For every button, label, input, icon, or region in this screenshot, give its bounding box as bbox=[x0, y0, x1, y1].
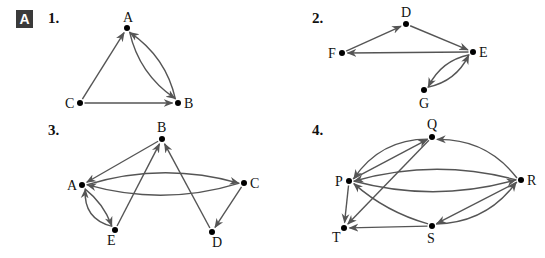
edge-E-to-A bbox=[85, 189, 112, 226]
graph-3: BACED bbox=[67, 120, 259, 250]
node-label-C: C bbox=[65, 96, 74, 111]
edge-P-to-R bbox=[353, 180, 515, 192]
node-label-Q: Q bbox=[427, 117, 437, 132]
node-D bbox=[403, 21, 409, 27]
edge-B-to-A bbox=[130, 33, 175, 100]
node-label-E: E bbox=[107, 233, 116, 248]
node-C bbox=[77, 100, 83, 106]
edge-E-to-G bbox=[428, 55, 469, 87]
node-label-B: B bbox=[157, 120, 166, 135]
node-A bbox=[124, 25, 130, 31]
graph-2: DEFG bbox=[328, 5, 488, 111]
node-label-A: A bbox=[123, 10, 134, 25]
edge-S-to-T bbox=[349, 226, 427, 228]
node-T bbox=[341, 225, 347, 231]
edge-A-to-B bbox=[130, 32, 175, 99]
node-label-B: B bbox=[184, 96, 193, 111]
node-R bbox=[518, 177, 524, 183]
node-A bbox=[79, 182, 85, 188]
edge-R-to-P bbox=[354, 169, 516, 181]
node-label-F: F bbox=[328, 46, 336, 61]
node-label-R: R bbox=[527, 173, 537, 188]
graph-4: QPRTS bbox=[332, 117, 537, 246]
edge-C-to-A bbox=[87, 183, 239, 195]
node-F bbox=[339, 50, 345, 56]
edge-A-to-C bbox=[86, 173, 238, 185]
edge-C-to-A bbox=[82, 33, 124, 100]
directed-graphs-canvas: ABCDEFGBACEDQPRTS bbox=[0, 0, 545, 258]
node-B bbox=[159, 136, 165, 142]
node-label-G: G bbox=[419, 96, 429, 111]
node-label-A: A bbox=[67, 178, 78, 193]
edge-G-to-E bbox=[428, 55, 469, 87]
edge-E-to-F bbox=[347, 52, 468, 53]
edge-C-to-D bbox=[215, 187, 242, 228]
edge-F-to-D bbox=[346, 26, 401, 51]
edge-D-to-E bbox=[410, 26, 468, 50]
node-B bbox=[175, 100, 181, 106]
node-label-D: D bbox=[212, 235, 222, 250]
edge-P-to-T bbox=[345, 185, 349, 222]
node-Q bbox=[429, 134, 435, 140]
node-E bbox=[470, 49, 476, 55]
edge-D-to-B bbox=[165, 144, 210, 228]
node-label-D: D bbox=[401, 5, 411, 20]
edge-E-to-B bbox=[117, 144, 159, 226]
node-C bbox=[241, 180, 247, 186]
node-label-S: S bbox=[427, 231, 435, 246]
graph-1: ABC bbox=[65, 10, 193, 111]
node-S bbox=[429, 223, 435, 229]
node-label-T: T bbox=[332, 230, 341, 245]
edge-S-to-P bbox=[354, 184, 428, 224]
node-P bbox=[346, 178, 352, 184]
node-label-P: P bbox=[335, 174, 343, 189]
node-label-C: C bbox=[250, 176, 259, 191]
node-G bbox=[421, 87, 427, 93]
node-label-E: E bbox=[479, 45, 488, 60]
